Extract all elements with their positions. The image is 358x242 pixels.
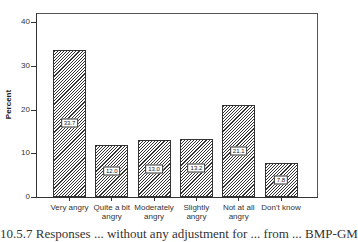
bar: 33.7 [53, 50, 86, 197]
y-tick [31, 66, 36, 67]
x-category-label: Slightly angry [173, 203, 219, 221]
bar-value-label: 21.1 [230, 146, 248, 155]
x-category-label: Very angry [47, 203, 93, 212]
x-tick [111, 197, 112, 201]
x-category-label: Not at allangry [216, 203, 262, 221]
x-tick [238, 197, 239, 201]
y-axis [36, 13, 37, 198]
y-axis-label: Percent [4, 90, 13, 119]
x-category-label: Quite a bitangry [89, 203, 135, 221]
x-category-label: Moderatelyangry [131, 203, 177, 221]
bar: 12.0 [95, 145, 128, 198]
x-category-label: Don't know [258, 203, 304, 212]
x-tick [196, 197, 197, 201]
bar-value-label: 7.8 [274, 175, 288, 184]
y-tick-label: 30 [14, 62, 30, 70]
y-tick [31, 197, 36, 198]
bar-value-label: 13.2 [188, 164, 206, 173]
figure-caption: 10.5.7 Responses ... without any adjustm… [0, 226, 329, 242]
bar-value-label: 13.0 [145, 164, 163, 173]
bar-value-label: 12.0 [103, 166, 121, 175]
x-tick [154, 197, 155, 201]
y-tick-label: 20 [14, 106, 30, 114]
bar-value-label: 33.7 [61, 119, 79, 128]
x-tick [69, 197, 70, 201]
y-tick-label: 40 [14, 18, 30, 26]
bar: 13.0 [138, 140, 171, 197]
bar: 21.1 [222, 105, 255, 197]
y-tick [31, 110, 36, 111]
y-tick [31, 22, 36, 23]
bar: 13.2 [180, 139, 213, 197]
x-axis [36, 197, 318, 198]
y-tick-label: 0 [14, 193, 30, 201]
y-tick-label: 10 [14, 149, 30, 157]
bar: 7.8 [265, 163, 298, 197]
x-tick [281, 197, 282, 201]
y-tick [31, 153, 36, 154]
